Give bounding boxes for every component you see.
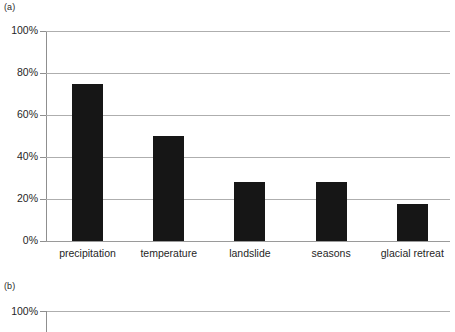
- panel-b-gridline: [46, 311, 450, 312]
- y-axis-label-100pct: 100%: [0, 24, 38, 36]
- bar-precipitation: [72, 84, 103, 242]
- gridline-100: [46, 31, 450, 32]
- gridline-0: [46, 241, 450, 242]
- x-axis-label-precipitation: precipitation: [59, 247, 116, 259]
- plot-area: [46, 31, 450, 241]
- y-axis-label-40pct: 40%: [0, 150, 38, 162]
- x-axis-label-landslide: landslide: [229, 247, 270, 259]
- bar-seasons: [316, 182, 347, 241]
- bar-landslide: [234, 182, 265, 241]
- panel-b-y-axis-line: [46, 311, 47, 332]
- y-axis-label-60pct: 60%: [0, 108, 38, 120]
- gridline-40: [46, 157, 450, 158]
- x-axis-label-temperature: temperature: [140, 247, 197, 259]
- gridline-80: [46, 73, 450, 74]
- figure: (a) 0%20%40%60%80%100% precipitationtemp…: [0, 0, 455, 332]
- gridline-60: [46, 115, 450, 116]
- x-axis-label-seasons: seasons: [312, 247, 351, 259]
- y-axis-label-0pct: 0%: [0, 234, 38, 246]
- y-axis-label-20pct: 20%: [0, 192, 38, 204]
- panel-b-y-axis-tick-label: 100%: [0, 305, 38, 317]
- y-axis-label-80pct: 80%: [0, 66, 38, 78]
- bar-glacial-retreat: [397, 204, 428, 241]
- x-axis-label-glacial-retreat: glacial retreat: [381, 247, 444, 259]
- panel-b-bar-chart: 100%: [0, 275, 455, 332]
- panel-a-bar-chart: 0%20%40%60%80%100% precipitationtemperat…: [0, 0, 455, 275]
- bar-temperature: [153, 136, 184, 241]
